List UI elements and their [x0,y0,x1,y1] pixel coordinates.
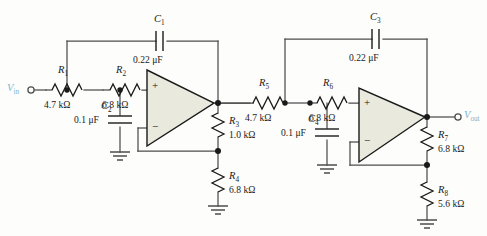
label-c2-ref: C2 [101,101,112,114]
opamp-u1-minus-sign: − [152,120,158,132]
label-c2-value: 0.1 μF [74,115,99,125]
label-c3-ref: C3 [370,12,381,25]
label-r3-ref: R3 [229,116,239,129]
junction-node-u2-output [424,114,430,120]
label-r8-value: 5.6 kΩ [438,199,464,209]
label-c1-value: 0.22 μF [133,55,163,65]
label-r2-ref: R2 [116,65,126,78]
label-r8-ref: R8 [438,185,448,198]
opamp-u2-plus-sign: + [364,96,370,108]
label-c4-value: 0.1 μF [281,128,306,138]
label-r5-ref: R5 [259,78,269,91]
label-r5-value: 4.7 kΩ [245,113,271,123]
label-r4-value: 6.8 kΩ [229,185,255,195]
label-r6-ref: R6 [323,78,333,91]
input-terminal[interactable] [28,87,34,93]
junction-node-r2-c2 [117,87,122,92]
junction-node-r1-r2 [64,87,69,92]
junction-node-r6-c4 [307,100,312,105]
junction-node-u1-output [215,100,221,106]
opamp-u2-minus-sign: − [364,134,370,146]
input-port-label: Vin [7,83,19,96]
opamp-u1-plus-sign: + [152,79,158,91]
output-terminal[interactable] [455,114,461,120]
label-r3-value: 1.0 kΩ [229,130,255,140]
label-c4-ref: C4 [308,114,319,127]
label-r1-value: 4.7 kΩ [44,100,70,110]
label-r4-ref: R4 [229,171,239,184]
junction-node-r3-r4 [215,148,221,154]
output-port-label: Vout [464,110,480,123]
junction-node-r5-r6 [282,100,287,105]
label-c3-value: 0.22 μF [349,53,379,63]
junction-node-r7-r8 [424,162,430,168]
label-r1-ref: R1 [58,65,68,78]
label-c1-ref: C1 [154,14,165,27]
label-r7-value: 6.8 kΩ [438,144,464,154]
label-r7-ref: R7 [438,130,448,143]
